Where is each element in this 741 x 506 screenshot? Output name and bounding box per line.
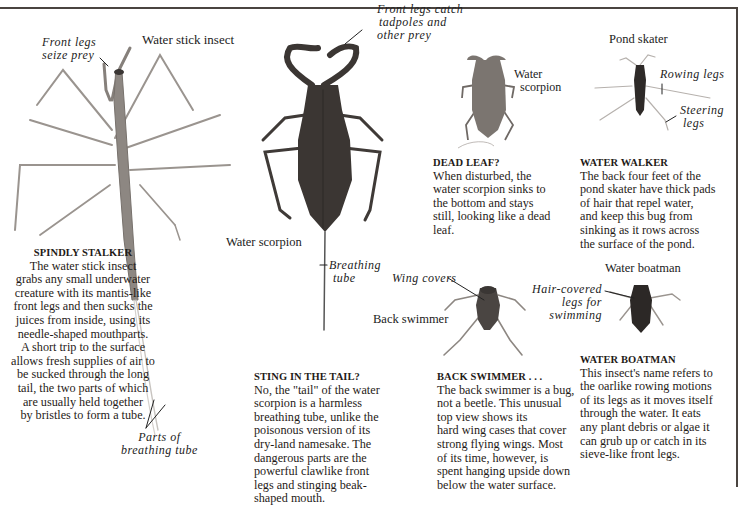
section-spindly-stalker: SPINDLY STALKER The water stick insect g… <box>8 246 158 423</box>
text-line: any plant debris or algae it <box>580 421 735 435</box>
text-line: hard wing cases that cover <box>437 424 587 438</box>
text-line: the oarlike rowing motions <box>580 380 735 394</box>
label-back-swimmer: Back swimmer <box>373 313 448 326</box>
text-line: scorpion is a harmless <box>254 397 424 411</box>
label-front-legs-seize-prey: Front legs seize prey <box>42 36 96 62</box>
text-line: front legs and then sucks the <box>8 300 158 314</box>
text-line: leaf. <box>433 224 573 238</box>
label-line: tube <box>329 272 381 285</box>
text-line: be sucked through the long <box>8 368 158 382</box>
label-water-stick-insect: Water stick insect <box>142 33 234 46</box>
section-water-walker: WATER WALKER The back four feet of the p… <box>580 156 735 251</box>
label-line: other prey <box>377 29 463 42</box>
label-front-legs-catch: Front legs catch tadpoles and other prey <box>377 3 463 42</box>
text-line: creature with its mantis-like <box>8 287 158 301</box>
text-line: juices from inside, using its <box>8 314 158 328</box>
section-heading: SPINDLY STALKER <box>8 246 158 260</box>
section-dead-leaf: DEAD LEAF? When disturbed, the water sco… <box>433 156 573 238</box>
label-line: breathing tube <box>121 444 198 457</box>
section-heading: DEAD LEAF? <box>433 156 573 170</box>
label-steering-legs: Steering legs <box>680 104 724 130</box>
text-line: of its time, however, is <box>437 452 587 466</box>
label-hair-covered-legs: Hair-covered legs for swimming <box>532 283 602 322</box>
text-line: below the water surface. <box>437 479 587 493</box>
text-line: This insect's name refers to <box>580 367 735 381</box>
text-line: the bottom and stays <box>433 197 573 211</box>
text-line: needle-shaped mouthparts. <box>8 328 158 342</box>
water-scorpion-small-illustration <box>458 56 514 149</box>
text-line: No, the "tail" of the water <box>254 384 424 398</box>
water-scorpion-large-illustration <box>263 30 382 330</box>
section-sting-in-the-tail: STING IN THE TAIL? No, the "tail" of the… <box>254 370 424 506</box>
section-heading: WATER WALKER <box>580 156 735 170</box>
section-water-boatman: WATER BOATMAN This insect's name refers … <box>580 353 735 462</box>
text-line: poisonous version of its <box>254 424 424 438</box>
text-line: the surface of the pond. <box>580 238 735 252</box>
text-line: allows fresh supplies of air to <box>8 355 158 369</box>
label-line: scorpion <box>514 81 561 94</box>
text-line: water scorpion sinks to <box>433 183 573 197</box>
text-line: When disturbed, the <box>433 170 573 184</box>
text-line: and keep this bug from <box>580 210 735 224</box>
text-line: sieve-like front legs. <box>580 448 735 462</box>
text-line: shaped mouth. <box>254 492 424 506</box>
text-line: top view shows its <box>437 411 587 425</box>
text-line: not a beetle. This unusual <box>437 397 587 411</box>
text-line: sinking as it rows across <box>580 224 735 238</box>
label-parts-of-breathing-tube: Parts of breathing tube <box>121 431 198 457</box>
text-line: The water stick insect <box>8 260 158 274</box>
text-line: tail, the two parts of which <box>8 382 158 396</box>
text-line: by bristles to form a tube. <box>8 409 158 423</box>
text-line: dry-land namesake. The <box>254 438 424 452</box>
label-pond-skater: Pond skater <box>609 33 668 46</box>
label-breathing-tube: Breathing tube <box>329 259 381 285</box>
text-line: breathing tube, unlike the <box>254 411 424 425</box>
label-water-boatman: Water boatman <box>605 262 681 275</box>
text-line: of its legs as it moves itself <box>580 394 735 408</box>
text-line: are usually held together <box>8 396 158 410</box>
text-line: through the water. It eats <box>580 407 735 421</box>
text-line: can grub up or catch in its <box>580 435 735 449</box>
text-line: The back four feet of the <box>580 170 735 184</box>
text-line: The back swimmer is a bug, <box>437 384 587 398</box>
text-line: powerful clawlike front <box>254 465 424 479</box>
section-back-swimmer: BACK SWIMMER . . . The back swimmer is a… <box>437 370 587 492</box>
section-heading: STING IN THE TAIL? <box>254 370 424 384</box>
text-line: dangerous parts are the <box>254 452 424 466</box>
back-swimmer-illustration <box>444 278 525 355</box>
text-line: grabs any small underwater <box>8 273 158 287</box>
label-line: seize prey <box>42 49 96 62</box>
text-line: pond skater have thick pads <box>580 183 735 197</box>
text-line: strong flying wings. Most <box>437 438 587 452</box>
label-line: legs <box>680 117 724 130</box>
text-line: spent hanging upside down <box>437 465 587 479</box>
text-line: of hair that repel water, <box>580 197 735 211</box>
section-heading: WATER BOATMAN <box>580 353 735 367</box>
water-boatman-illustration <box>605 285 680 333</box>
label-water-scorpion-small: Water scorpion <box>514 68 561 94</box>
label-wing-covers: Wing covers <box>392 272 457 285</box>
text-line: still, looking like a dead <box>433 210 573 224</box>
text-line: legs and stinging beak- <box>254 479 424 493</box>
text-line: A short trip to the surface <box>8 341 158 355</box>
label-water-scorpion: Water scorpion <box>226 236 302 249</box>
label-line: swimming <box>532 309 602 322</box>
label-rowing-legs: Rowing legs <box>660 68 725 81</box>
section-heading: BACK SWIMMER . . . <box>437 370 587 384</box>
